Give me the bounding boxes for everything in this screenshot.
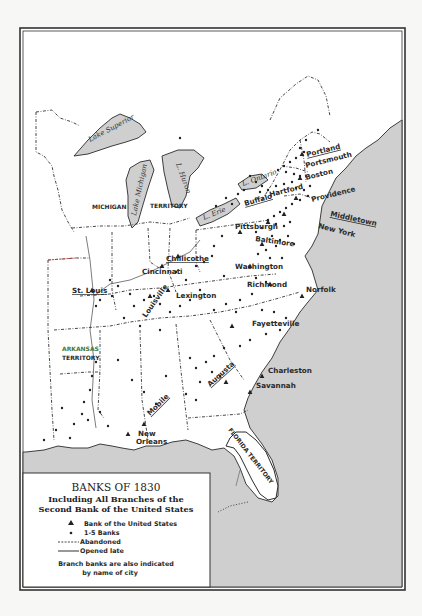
bank-dot xyxy=(143,299,145,301)
bank-dot xyxy=(257,253,259,255)
bank-dot xyxy=(213,355,215,357)
bank-dot xyxy=(223,347,225,349)
bank-dot xyxy=(91,375,93,377)
bank-dot xyxy=(61,407,63,409)
bank-dot xyxy=(159,303,161,305)
bank-dot xyxy=(289,221,291,223)
bank-dot xyxy=(293,173,295,175)
legend-note-1: Branch banks are also indicated xyxy=(58,560,174,568)
bank-dot xyxy=(279,329,281,331)
bank-dot xyxy=(261,309,263,311)
bank-dot xyxy=(309,185,311,187)
bank-dot xyxy=(107,425,109,427)
label-lexington: Lexington xyxy=(176,291,216,300)
bank-dot xyxy=(281,257,283,259)
bank-dot xyxy=(213,245,215,247)
label-richmond: Richmond xyxy=(247,280,287,289)
bank-dot xyxy=(99,299,101,301)
bank-dot xyxy=(83,401,85,403)
bank-dot xyxy=(205,361,207,363)
bank-dot xyxy=(285,207,287,209)
bank-dot xyxy=(291,203,293,205)
label-savannah: Savannah xyxy=(256,381,296,390)
bank-dot xyxy=(273,311,275,313)
bank-dot xyxy=(189,357,191,359)
bank-dot xyxy=(185,393,187,395)
banks-1830-map: Lake Superior Lake Michigan L. Huron L. … xyxy=(0,0,422,616)
bank-dot xyxy=(283,225,285,227)
bank-dot xyxy=(131,379,133,381)
label-chillicothe: Chillicothe xyxy=(166,254,209,263)
legend-note-2: by name of city xyxy=(82,569,138,577)
bank-dot xyxy=(139,325,141,327)
legend-subtitle-2: Second Bank of the United States xyxy=(39,504,194,514)
label-arkansas: ARKANSAS xyxy=(62,345,99,352)
bank-dot xyxy=(295,157,297,159)
bank-dot xyxy=(251,293,253,295)
bank-dot xyxy=(265,333,267,335)
bank-dot xyxy=(225,303,227,305)
legend: BANKS OF 1830 Including All Branches of … xyxy=(23,473,210,587)
bank-dot xyxy=(109,279,111,281)
bank-dot xyxy=(289,161,291,163)
bank-dot xyxy=(133,305,135,307)
bank-dot xyxy=(225,197,227,199)
bank-dot xyxy=(87,419,89,421)
label-michigan-territory: TERRITORY xyxy=(150,202,188,209)
bank-dot xyxy=(235,311,237,313)
bank-dot xyxy=(169,311,171,313)
legend-title: BANKS OF 1830 xyxy=(72,481,161,493)
bank-dot xyxy=(179,305,181,307)
bank-dot xyxy=(239,299,241,301)
bank-dot xyxy=(55,429,57,431)
label-st-louis: St. Louis xyxy=(72,286,107,295)
bank-dot xyxy=(117,285,119,287)
bank-dot xyxy=(195,399,197,401)
bank-dot xyxy=(275,185,277,187)
bank-dot xyxy=(249,339,251,341)
bank-dot xyxy=(305,139,307,141)
legend-item-abandoned: Abandoned xyxy=(80,538,121,546)
label-new-orleans-2: Orleans xyxy=(136,437,167,446)
bank-dot xyxy=(221,235,223,237)
label-fayetteville: Fayetteville xyxy=(252,319,299,328)
bank-dot xyxy=(69,437,71,439)
label-washington: Washington xyxy=(235,262,283,271)
legend-subtitle-1: Including All Branches of the xyxy=(48,494,184,504)
bank-dot xyxy=(269,257,271,259)
bank-dot xyxy=(165,375,167,377)
bank-dot xyxy=(95,305,97,307)
bank-dot xyxy=(199,381,201,383)
bank-dot xyxy=(299,147,301,149)
dot-icon xyxy=(70,532,73,535)
bank-dot xyxy=(279,211,281,213)
bank-dot xyxy=(277,169,279,171)
bank-dot xyxy=(89,389,91,391)
bank-dot xyxy=(211,255,213,257)
bank-dot xyxy=(223,275,225,277)
label-cincinnati: Cincinnati xyxy=(142,267,183,276)
bank-dot xyxy=(111,295,113,297)
bank-dot xyxy=(243,189,245,191)
bank-dot xyxy=(239,345,241,347)
bank-dot xyxy=(195,367,197,369)
bank-dot xyxy=(123,317,125,319)
legend-item-opened-late: Opened late xyxy=(80,547,125,555)
label-michigan: MICHIGAN xyxy=(92,203,126,210)
bank-dot xyxy=(283,183,285,185)
bank-dot xyxy=(99,411,101,413)
label-norfolk: Norfolk xyxy=(306,285,336,294)
bank-dot xyxy=(81,413,83,415)
label-pittsburgh: Pittsburgh xyxy=(235,222,278,231)
bank-dot xyxy=(261,185,263,187)
bank-dot xyxy=(185,279,187,281)
bank-dot xyxy=(265,249,267,251)
bank-dot xyxy=(143,391,145,393)
bank-dot xyxy=(211,371,213,373)
bank-dot xyxy=(287,235,289,237)
bank-dot xyxy=(291,181,293,183)
bank-dot xyxy=(195,265,197,267)
bank-dot xyxy=(215,205,217,207)
bank-dot xyxy=(73,423,75,425)
bank-dot xyxy=(299,199,301,201)
